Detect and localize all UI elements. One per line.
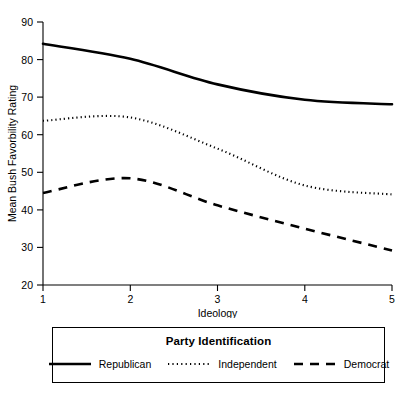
legend-item-independent[interactable]: Independent [167,358,276,370]
legend-title: Party Identification [53,335,384,347]
x-tick-label: 1 [40,293,46,305]
plot-area: 90 80 70 60 50 40 30 20 1 2 3 [0,0,412,318]
x-tick-label: 3 [215,293,221,305]
legend-label: Independent [218,358,276,370]
y-axis-tick-labels: 90 80 70 60 50 40 30 20 [21,16,33,291]
legend-swatch-dashed-icon [293,359,337,369]
y-tick-label: 60 [21,129,33,141]
y-axis-ticks [37,22,43,285]
y-tick-label: 80 [21,54,33,66]
y-tick-label: 50 [21,166,33,178]
x-axis-ticks [43,285,392,291]
x-axis-tick-labels: 1 2 3 4 5 [40,293,395,305]
chart-root: 90 80 70 60 50 40 30 20 1 2 3 [0,0,412,399]
line-chart-svg: 90 80 70 60 50 40 30 20 1 2 3 [0,0,412,318]
x-axis-title: Ideology [198,307,238,318]
legend-box: Party Identification Republican Independ… [52,327,385,383]
legend-item-democrat[interactable]: Democrat [293,358,390,370]
x-tick-label: 4 [302,293,308,305]
y-axis-title: Mean Bush Favorbility Rating [6,85,18,222]
y-tick-label: 20 [21,279,33,291]
legend-swatch-solid-icon [48,359,92,369]
y-tick-label: 40 [21,204,33,216]
series-line-democrat [43,178,392,250]
series-line-republican [43,44,392,104]
y-tick-label: 90 [21,16,33,28]
y-tick-label: 70 [21,91,33,103]
legend-item-republican[interactable]: Republican [48,358,152,370]
legend-items: Republican Independent Democrat [53,358,384,370]
y-tick-label: 30 [21,241,33,253]
x-tick-label: 5 [389,293,395,305]
series-line-independent [43,116,392,195]
legend-label: Republican [99,358,152,370]
x-tick-label: 2 [127,293,133,305]
series-group [43,44,392,251]
legend-swatch-dotted-icon [167,359,211,369]
legend-label: Democrat [344,358,390,370]
